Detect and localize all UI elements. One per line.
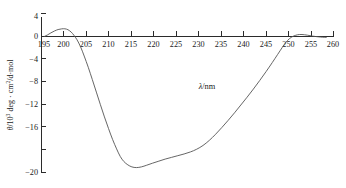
y-tick-label: −8 <box>29 77 38 86</box>
y-tick-label: −4 <box>29 55 38 64</box>
x-tick-label: 230 <box>192 40 204 49</box>
y-tick-label: 0 <box>34 32 38 41</box>
y-tick-label: −20 <box>25 168 38 177</box>
x-tick-label: 210 <box>102 40 114 49</box>
x-tick-label: 205 <box>80 40 92 49</box>
x-axis-tick-labels: 195 200 205 210 215 220 225 230 235 240 … <box>38 40 339 49</box>
x-tick-label: 260 <box>327 40 339 49</box>
x-tick-label: 220 <box>147 40 159 49</box>
y-axis-tick-labels: 4 0 −4 −8 −12 −16 −20 <box>25 12 38 177</box>
spectrum-curve <box>45 29 327 168</box>
y-tick-label: −16 <box>25 123 38 132</box>
y-tick-label: −12 <box>25 100 38 109</box>
svg-text:θ/103 deg · cm2/d·mol: θ/103 deg · cm2/d·mol <box>5 59 15 131</box>
cd-spectrum-figure: 195 200 205 210 215 220 225 230 235 240 … <box>0 0 346 188</box>
y-axis-ticks <box>41 13 46 172</box>
y-axis-title-units-b: /d·mol <box>6 59 15 81</box>
x-tick-label: 225 <box>170 40 182 49</box>
x-tick-label: 200 <box>57 40 69 49</box>
y-tick-label: 4 <box>34 12 38 21</box>
y-axis-title-scale: /10 <box>6 116 15 126</box>
x-tick-label: 215 <box>125 40 137 49</box>
x-tick-label: 195 <box>38 40 50 49</box>
plot-svg: 195 200 205 210 215 220 225 230 235 240 … <box>0 0 346 188</box>
x-tick-label: 255 <box>305 40 317 49</box>
x-tick-label: 245 <box>260 40 272 49</box>
x-axis-ticks <box>41 31 334 36</box>
y-axis-title-units-a: deg · cm <box>6 83 15 114</box>
x-tick-label: 240 <box>237 40 249 49</box>
x-tick-label: 235 <box>215 40 227 49</box>
lambda-nm-annotation: λ/nm <box>198 82 216 91</box>
y-axis-title: θ/103 deg · cm2/d·mol <box>5 59 15 131</box>
lambda-unit: /nm <box>202 82 216 91</box>
